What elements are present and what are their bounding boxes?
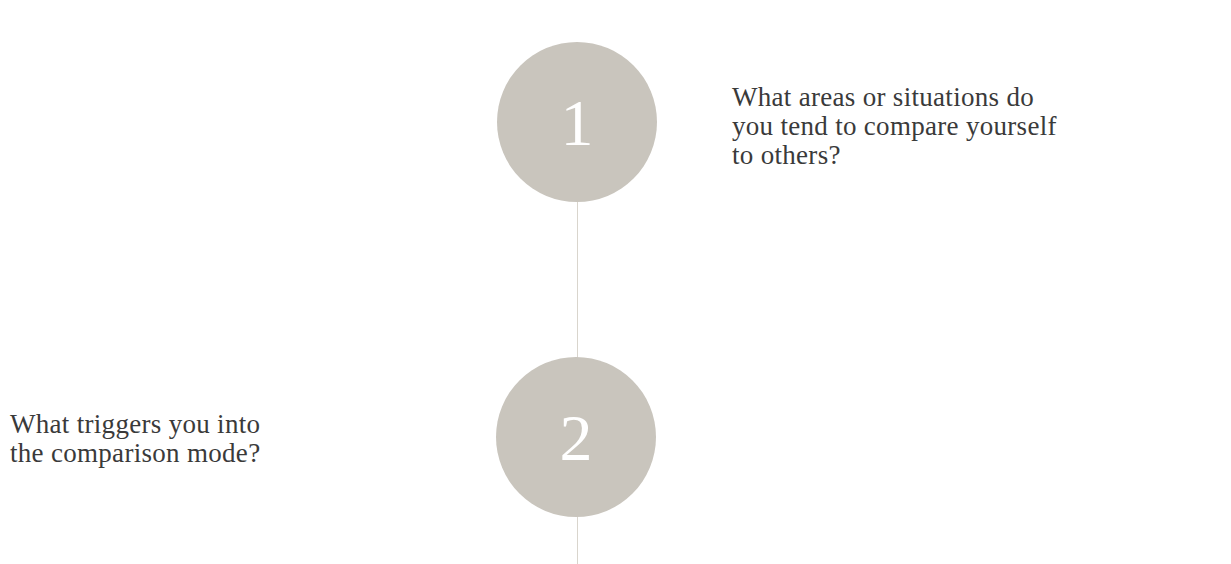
step-1-question-line-1: What areas or situations do [732,83,1057,112]
step-2-question: What triggers you into the comparison mo… [10,410,260,468]
step-2-circle: 2 [496,357,656,517]
step-1-question-line-3: to others? [732,141,1057,170]
step-1-question-line-2: you tend to compare yourself [732,112,1057,141]
step-1-circle: 1 [497,42,657,202]
step-1-question: What areas or situations do you tend to … [732,83,1057,170]
step-2-question-line-1: What triggers you into [10,410,260,439]
connector-line-1-2 [577,202,578,358]
step-1-number: 1 [561,90,594,156]
step-2-number: 2 [560,405,593,471]
connector-line-2-next [577,516,578,564]
step-2-question-line-2: the comparison mode? [10,439,260,468]
